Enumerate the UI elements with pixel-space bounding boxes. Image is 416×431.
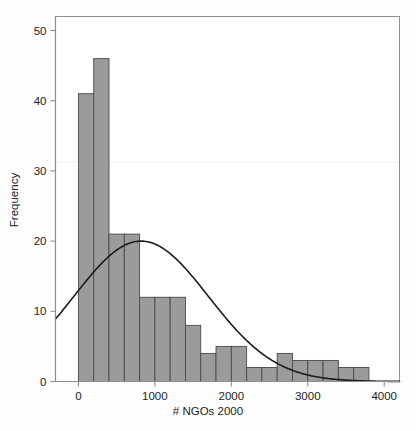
x-axis-ticks: 01000200030004000 <box>75 382 397 402</box>
y-tick-label: 0 <box>40 376 46 388</box>
y-axis-title: Frequency <box>8 173 20 228</box>
histogram-bar <box>354 367 369 381</box>
histogram-bar <box>109 234 124 381</box>
histogram-chart: 01020304050 01000200030004000 # NGOs 200… <box>0 0 416 431</box>
y-axis-ticks: 01020304050 <box>34 25 56 388</box>
histogram-bar <box>155 297 170 381</box>
y-tick-label: 20 <box>34 235 47 247</box>
y-tick-label: 10 <box>34 305 47 317</box>
x-tick-label: 0 <box>75 390 81 402</box>
histogram-bar <box>247 367 262 381</box>
figure-canvas: 01020304050 01000200030004000 # NGOs 200… <box>0 0 416 431</box>
histogram-bar <box>262 367 277 381</box>
histogram-bar <box>231 346 246 381</box>
histogram-bar <box>170 297 185 381</box>
histogram-bar <box>140 297 155 381</box>
histogram-bar <box>201 353 216 381</box>
x-tick-label: 3000 <box>295 390 321 402</box>
x-axis-title: # NGOs 2000 <box>173 405 243 417</box>
y-tick-label: 50 <box>34 25 47 37</box>
y-tick-label: 30 <box>34 165 47 177</box>
x-tick-label: 1000 <box>142 390 168 402</box>
histogram-bar <box>78 94 93 382</box>
histogram-bar <box>216 346 231 381</box>
histogram-bar <box>94 59 109 382</box>
x-tick-label: 4000 <box>371 390 397 402</box>
x-tick-label: 2000 <box>219 390 245 402</box>
histogram-bar <box>185 325 200 381</box>
histogram-bar <box>124 234 139 381</box>
y-tick-label: 40 <box>34 95 47 107</box>
